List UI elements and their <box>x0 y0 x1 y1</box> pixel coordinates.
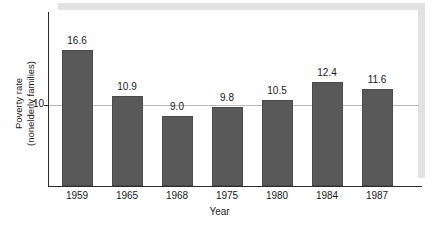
bar-group: 11.61987 <box>362 0 393 226</box>
bar-value-label: 12.4 <box>303 67 351 79</box>
bar <box>62 50 93 186</box>
bar <box>312 82 343 186</box>
x-axis-tick-label: 1980 <box>253 190 301 202</box>
x-axis-tick-label: 1968 <box>153 190 201 202</box>
bar-value-label: 10.5 <box>253 85 301 97</box>
bar <box>112 96 143 186</box>
bar-group: 12.41984 <box>312 0 343 226</box>
bar-group: 9.81975 <box>212 0 243 226</box>
bar-group: 10.51980 <box>262 0 293 226</box>
bar-value-label: 11.6 <box>353 74 401 86</box>
bar-group: 16.61959 <box>62 0 93 226</box>
x-axis-tick-label: 1965 <box>103 190 151 202</box>
bar-value-label: 9.0 <box>153 101 201 113</box>
bar-value-label: 10.9 <box>103 81 151 93</box>
bar <box>262 100 293 186</box>
bar-value-label: 9.8 <box>203 92 251 104</box>
x-axis-tick-label: 1975 <box>203 190 251 202</box>
x-axis-tick-label: 1959 <box>53 190 101 202</box>
x-axis-tick-label: 1987 <box>353 190 401 202</box>
bar-group: 10.91965 <box>112 0 143 226</box>
bar-value-label: 16.6 <box>53 35 101 47</box>
bar-group: 9.01968 <box>162 0 193 226</box>
x-axis-tick-label: 1984 <box>303 190 351 202</box>
bar <box>212 107 243 186</box>
poverty-rate-bar-chart: 10 Poverty rate (nonelderly families) 16… <box>0 0 439 226</box>
bar <box>162 116 193 186</box>
bar <box>362 89 393 186</box>
x-axis-title: Year <box>0 206 439 217</box>
bars-layer: 16.6195910.919659.019689.8197510.5198012… <box>0 0 439 226</box>
